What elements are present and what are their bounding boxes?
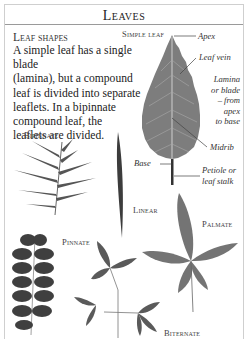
linear-leaf <box>117 132 123 238</box>
annotation-base: Base <box>134 158 151 169</box>
annotation-leaf-vein: Leaf vein <box>199 52 231 63</box>
annotation-lamina-line: or blade <box>208 85 240 96</box>
annotation-petiole-line: leaf stalk <box>202 176 236 187</box>
annotation-midrib: Midrib <box>210 142 234 153</box>
label-pinnate: Pinnate <box>62 237 90 247</box>
annotation-petiole-line: Petiole or <box>202 165 236 176</box>
annotation-lamina-line: to base <box>208 116 240 127</box>
annotation-petiole: Petiole or leaf stalk <box>202 165 236 186</box>
annotation-apex: Apex <box>198 31 215 42</box>
bipinnate-leaf <box>14 139 96 215</box>
annotation-lamina-line: – from <box>208 95 240 106</box>
pinnate-leaf <box>12 234 54 335</box>
annotation-lamina-line: Lamina <box>208 74 240 85</box>
biternate-leaf <box>74 241 160 338</box>
annotation-lamina-line: apex <box>208 106 240 117</box>
label-biternate: Biternate <box>164 328 200 338</box>
label-linear: Linear <box>133 205 158 215</box>
label-bipinnate: Bipinnate <box>24 130 58 140</box>
annotation-lamina: Lamina or blade – from apex to base <box>208 74 240 127</box>
label-palmate: Palmate <box>202 219 232 229</box>
